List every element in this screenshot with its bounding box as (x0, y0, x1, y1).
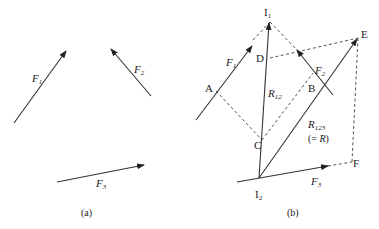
r123-equivalence-label: (= R) (308, 133, 329, 145)
point-d-label: D (256, 52, 264, 64)
point-b-label: B (308, 82, 315, 94)
resultant-r123-vector (259, 39, 357, 178)
f3-extension-dashed (328, 162, 352, 166)
f3-label: F3 (95, 177, 107, 191)
f1-extension-dashed (253, 22, 270, 40)
f1-label-b: F1 (225, 56, 236, 70)
f2-label-b: F2 (314, 64, 326, 78)
panel-a-caption: (a) (81, 207, 92, 219)
point-e-label: E (361, 28, 368, 40)
panel-b-caption: (b) (287, 207, 299, 219)
panel-b: I1 I2 A B C D E F F1 F2 F3 R12 R123 (= R… (196, 6, 368, 219)
force-f3-vector: F3 (57, 165, 144, 191)
point-f-label: F (353, 157, 359, 169)
r123-label: R123 (307, 118, 326, 132)
a-to-c-dashed (216, 91, 262, 140)
f2-label: F2 (133, 63, 145, 77)
force-f1-vector: F1 (14, 51, 66, 123)
panel-a: F1 F2 F3 (a) (14, 49, 151, 219)
r12-label: R12 (267, 87, 282, 101)
e-to-f-dashed (352, 38, 358, 162)
f3-label-b: F3 (310, 175, 322, 189)
point-c-label: C (254, 139, 261, 151)
resultant-r12-vector (259, 23, 269, 178)
force-f2-vector: F2 (111, 49, 151, 96)
point-a-label: A (205, 82, 213, 94)
c-to-b-dashed (262, 73, 313, 140)
point-i1-label: I1 (264, 6, 272, 20)
point-i2-label: I2 (255, 188, 263, 202)
i1-to-f2-dashed (270, 22, 297, 50)
construction-lines (216, 22, 358, 166)
d-to-e-dashed (270, 38, 358, 58)
force-diagram: F1 F2 F3 (a) I1 I2 (0, 0, 379, 229)
f1-label: F1 (31, 72, 42, 86)
